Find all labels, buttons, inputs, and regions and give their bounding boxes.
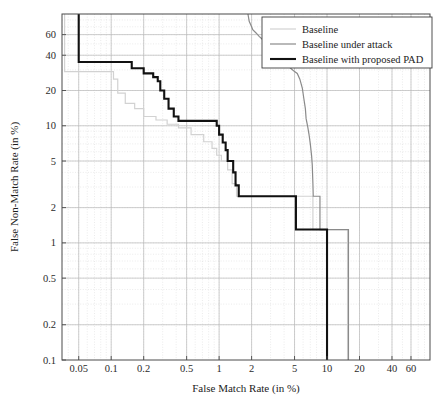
y-tick-label: 1 [51, 237, 56, 248]
y-tick-label: 20 [46, 85, 57, 96]
y-tick-label: 5 [51, 156, 56, 167]
det-plot-svg: 0.050.10.20.512510204060 0.10.20.5125102… [0, 0, 445, 420]
y-axis-ticks [62, 35, 66, 360]
x-tick-label: 20 [354, 363, 365, 374]
x-tick-label: 5 [292, 363, 297, 374]
x-tick-label: 1 [216, 363, 221, 374]
y-axis-title: False Non-Match Rate (in %) [8, 122, 21, 252]
y-tick-label: 40 [46, 50, 57, 61]
y-tick-label: 0.2 [43, 319, 56, 330]
y-axis-ticklabels: 0.10.20.512510204060 [43, 29, 56, 365]
legend-label-2: Baseline with proposed PAD [302, 54, 424, 65]
x-tick-label: 0.5 [180, 363, 193, 374]
y-tick-label: 0.5 [43, 273, 56, 284]
y-tick-label: 10 [46, 120, 57, 131]
x-tick-label: 40 [387, 363, 398, 374]
y-tick-label: 0.1 [43, 355, 56, 366]
legend-label-1: Baseline under attack [302, 39, 393, 50]
y-tick-label: 60 [46, 29, 57, 40]
x-tick-label: 60 [406, 363, 417, 374]
x-axis-ticks [79, 356, 411, 360]
x-tick-label: 10 [322, 363, 333, 374]
x-axis-title: False Match Rate (in %) [192, 382, 300, 395]
legend: BaselineBaseline under attackBaseline wi… [262, 17, 432, 68]
x-axis-ticklabels: 0.050.10.20.512510204060 [70, 363, 417, 374]
x-tick-label: 0.05 [70, 363, 88, 374]
legend-label-0: Baseline [302, 24, 338, 35]
x-tick-label: 0.2 [137, 363, 150, 374]
det-curve-chart: 0.050.10.20.512510204060 0.10.20.5125102… [0, 0, 445, 420]
y-tick-label: 2 [51, 202, 56, 213]
x-tick-label: 0.1 [105, 363, 118, 374]
x-tick-label: 2 [249, 363, 254, 374]
